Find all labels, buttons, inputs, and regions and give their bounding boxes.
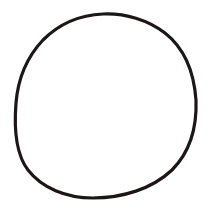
background xyxy=(0,0,212,216)
circle-drawing xyxy=(0,0,212,216)
drawing-canvas: Hand-drawn circle outline on white backg… xyxy=(0,0,212,216)
